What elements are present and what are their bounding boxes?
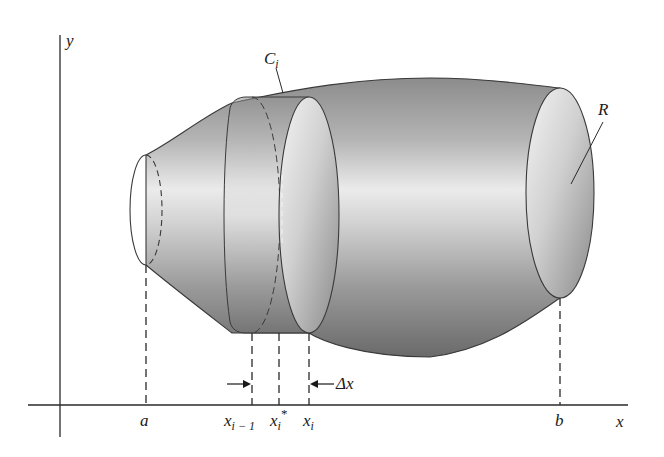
tick-label-x-i: xi <box>302 411 314 433</box>
slice-label-main: C <box>264 49 276 68</box>
x-axis-label: x <box>615 412 624 431</box>
left-arrow-head <box>243 380 251 388</box>
tick-label-x-prev: xi − 1 <box>223 411 255 433</box>
right-arrow-head <box>310 380 318 388</box>
solid-label: R <box>597 100 609 119</box>
ci-leader-line <box>276 68 283 93</box>
x-star-sup: * <box>281 406 288 421</box>
tick-label-x-star: xi* <box>269 406 287 433</box>
solid-surface <box>146 78 560 357</box>
x-i-sub: i <box>311 419 314 433</box>
cylinder-slice <box>224 97 339 333</box>
x-prev-sub: i − 1 <box>232 419 255 433</box>
solid-body <box>130 78 594 357</box>
solid-of-revolution-figure: y x Ci R a b xi − 1 xi* xi Δx <box>0 0 664 457</box>
tick-label-b: b <box>555 411 564 430</box>
delta-x-indicator <box>227 380 334 388</box>
slice-label: Ci <box>264 49 279 71</box>
x-star-sub: i <box>278 419 281 433</box>
tick-label-a: a <box>140 411 149 430</box>
slice-label-sub: i <box>275 57 278 71</box>
left-end-front <box>130 155 146 265</box>
y-axis-label: y <box>64 31 74 50</box>
delta-x-label: Δx <box>335 374 354 393</box>
cylinder-front-face <box>279 97 339 333</box>
right-end-cap <box>526 88 594 298</box>
